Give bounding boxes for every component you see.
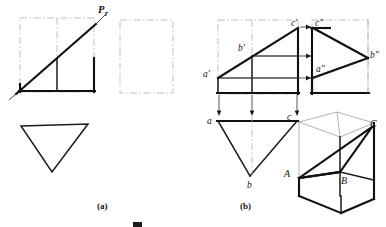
prism-top-front-diag-left xyxy=(299,122,340,137)
figure-svg: P r a' b' xyxy=(0,0,386,227)
projector-arrow-down-mid-head xyxy=(250,111,255,117)
front-view-label-a-prime: a' xyxy=(203,69,211,79)
front-view-oblique-ac xyxy=(218,28,298,78)
top-view-left-oblique xyxy=(218,121,250,176)
panel-a-trace-label-sub: r xyxy=(105,9,108,18)
projector-arrow-a-head xyxy=(306,76,311,81)
projector-arrow-b-head xyxy=(306,54,311,59)
part-label-b: (b) xyxy=(240,201,251,211)
caption-marker-bar xyxy=(133,222,142,227)
projector-arrow-down-right-head xyxy=(295,111,300,117)
panel-a-oblique-trace-extension xyxy=(9,94,16,100)
side-view-group: c" a" b" xyxy=(311,18,380,94)
prism-label-B: B xyxy=(341,175,347,186)
projector-arrow-down-left-head xyxy=(217,111,222,117)
side-view-oblique-cb xyxy=(313,28,368,58)
technical-drawing-figure: P r a' b' xyxy=(0,0,386,227)
prism-label-A: A xyxy=(283,168,291,179)
top-view-label-b: b xyxy=(247,180,252,190)
prism-top-back-left xyxy=(299,112,337,122)
prism-cut-edge-AC xyxy=(299,127,372,178)
part-label-a: (a) xyxy=(97,201,108,211)
prism-bottom-front-right xyxy=(341,199,374,213)
front-view-label-c-prime: c' xyxy=(291,18,298,28)
front-view-label-b-prime: b' xyxy=(238,43,246,53)
pictorial-prism-group: A B C xyxy=(283,112,377,213)
panel-b-group: a' b' c' c" a" b" xyxy=(203,18,380,213)
front-view-frame-faint xyxy=(218,20,298,94)
prism-top-mid-vertical xyxy=(337,112,340,137)
panel-a-top-triangle xyxy=(21,124,88,172)
top-view-label-a: a xyxy=(207,116,212,126)
figure-caption-row xyxy=(133,222,142,227)
panel-a-group: P r xyxy=(9,4,173,172)
side-view-label-a-double-prime: a" xyxy=(316,64,326,74)
panel-a-side-rect xyxy=(120,20,173,93)
prism-bottom-front-left xyxy=(299,196,341,213)
panel-a-trace-label: P xyxy=(98,4,105,15)
prism-cut-edge-BC xyxy=(340,127,372,172)
prism-label-C: C xyxy=(370,118,377,129)
side-view-label-b-double-prime: b" xyxy=(370,50,380,60)
panel-a-oblique-trace-line xyxy=(16,24,96,94)
prism-top-back-right xyxy=(337,112,374,123)
side-view-label-c-double-prime: c" xyxy=(315,18,324,28)
